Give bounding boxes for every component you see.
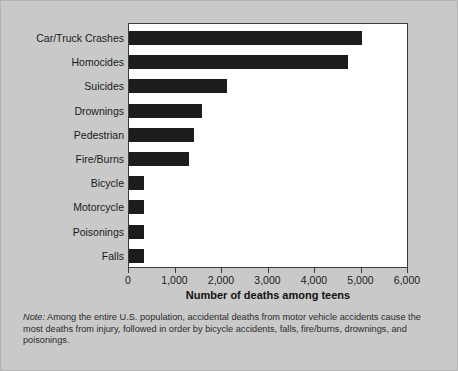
bar [129, 200, 144, 214]
bar [129, 104, 202, 118]
x-tick-mark [175, 268, 176, 273]
x-tick-mark [407, 268, 408, 273]
x-tick-label: 2,000 [199, 274, 243, 286]
category-label: Poisonings [1, 226, 124, 238]
footnote-text: Among the entire U.S. population, accide… [23, 312, 421, 345]
bar [129, 79, 227, 93]
x-tick-mark [128, 268, 129, 273]
x-tick-mark [221, 268, 222, 273]
bar [129, 55, 348, 69]
category-label: Drownings [1, 105, 124, 117]
x-tick-label: 1,000 [153, 274, 197, 286]
bar-chart-figure: Car/Truck CrashesHomocidesSuicidesDrowni… [0, 0, 458, 371]
bars-layer [129, 23, 407, 267]
bar [129, 225, 144, 239]
category-label: Fire/Burns [1, 153, 124, 165]
category-label: Suicides [1, 80, 124, 92]
x-tick-label: 0 [106, 274, 150, 286]
x-tick-label: 5,000 [339, 274, 383, 286]
category-label: Car/Truck Crashes [1, 32, 124, 44]
x-tick-label: 4,000 [292, 274, 336, 286]
category-label: Pedestrian [1, 129, 124, 141]
bar [129, 31, 362, 45]
x-tick-mark [268, 268, 269, 273]
x-axis-title: Number of deaths among teens [128, 289, 408, 301]
footnote-label: Note: [23, 312, 45, 322]
category-axis-labels: Car/Truck CrashesHomocidesSuicidesDrowni… [1, 23, 124, 268]
category-label: Homocides [1, 56, 124, 68]
bar [129, 128, 194, 142]
category-label: Motorcycle [1, 201, 124, 213]
bar [129, 249, 144, 263]
x-tick-mark [314, 268, 315, 273]
bar [129, 152, 189, 166]
x-tick-label: 6,000 [385, 274, 429, 286]
x-tick-label: 3,000 [246, 274, 290, 286]
x-tick-mark [361, 268, 362, 273]
bar [129, 176, 144, 190]
category-label: Bicycle [1, 177, 124, 189]
category-label: Falls [1, 250, 124, 262]
footnote: Note: Among the entire U.S. population, … [23, 312, 441, 347]
